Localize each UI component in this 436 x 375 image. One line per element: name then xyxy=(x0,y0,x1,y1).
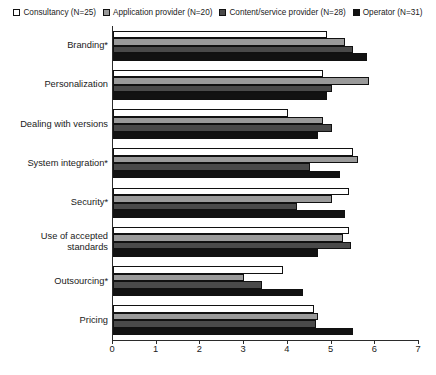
category-label: Pricing xyxy=(0,315,108,326)
x-axis-tick-label: 0 xyxy=(102,344,122,354)
bar xyxy=(113,289,303,297)
bar xyxy=(113,195,332,203)
bar xyxy=(113,46,353,54)
bar xyxy=(113,156,358,164)
legend-swatch-content-service-provider-icon xyxy=(219,9,226,16)
bar-group xyxy=(113,31,419,61)
bar-group xyxy=(113,227,419,257)
bar xyxy=(113,328,353,336)
legend-entry: Content/service provider (N=28) xyxy=(219,9,345,17)
bar xyxy=(113,92,327,100)
bar xyxy=(113,70,323,78)
x-axis-tick-label: 1 xyxy=(146,344,166,354)
legend-label: Operator (N=31) xyxy=(363,9,423,17)
bar xyxy=(113,210,345,218)
bar-group xyxy=(113,148,419,178)
bar xyxy=(113,163,310,171)
bar xyxy=(113,38,345,46)
legend-label: Application provider (N=20) xyxy=(113,9,212,17)
bar xyxy=(113,320,316,328)
legend-swatch-operator-icon xyxy=(353,9,360,16)
category-label: Use of accepted standards xyxy=(0,231,108,252)
value-axis: 01234567 xyxy=(112,340,418,360)
category-axis-labels: Branding*PersonalizationDealing with ver… xyxy=(0,26,108,340)
legend-swatch-consultancy-icon xyxy=(13,9,20,16)
x-axis-tick-label: 4 xyxy=(277,344,297,354)
bar xyxy=(113,313,318,321)
bar xyxy=(113,148,353,156)
bar xyxy=(113,249,318,257)
category-label: System integration* xyxy=(0,158,108,169)
bar xyxy=(113,109,288,117)
x-axis-tick-label: 3 xyxy=(233,344,253,354)
chart-legend: Consultancy (N=25)Application provider (… xyxy=(0,4,436,22)
bar xyxy=(113,77,369,85)
bar xyxy=(113,234,343,242)
bar xyxy=(113,171,340,179)
category-label: Outsourcing* xyxy=(0,276,108,287)
bar xyxy=(113,227,349,235)
bar xyxy=(113,124,332,132)
bar xyxy=(113,117,323,125)
bar xyxy=(113,266,283,274)
chart-area: Branding*PersonalizationDealing with ver… xyxy=(0,22,436,375)
legend-entry: Application provider (N=20) xyxy=(103,9,212,17)
bar xyxy=(113,85,332,93)
legend-label: Content/service provider (N=28) xyxy=(229,9,345,17)
bar xyxy=(113,242,351,250)
bar-group xyxy=(113,188,419,218)
bar xyxy=(113,132,318,140)
bar-group xyxy=(113,305,419,335)
bar xyxy=(113,274,244,282)
legend-label: Consultancy (N=25) xyxy=(23,9,96,17)
bar xyxy=(113,53,367,61)
bar-group xyxy=(113,109,419,139)
legend-entry: Operator (N=31) xyxy=(353,9,423,17)
bar xyxy=(113,281,262,289)
x-axis-tick-label: 5 xyxy=(321,344,341,354)
category-label: Dealing with versions xyxy=(0,119,108,130)
legend-swatch-application-provider-icon xyxy=(103,9,110,16)
plot-area xyxy=(112,26,419,341)
category-label: Security* xyxy=(0,197,108,208)
category-label: Branding* xyxy=(0,40,108,51)
legend-entry: Consultancy (N=25) xyxy=(13,9,96,17)
bar xyxy=(113,31,327,39)
x-axis-tick-label: 6 xyxy=(364,344,384,354)
category-label: Personalization xyxy=(0,79,108,90)
bar-group xyxy=(113,70,419,100)
x-axis-tick-label: 7 xyxy=(408,344,428,354)
bar xyxy=(113,188,349,196)
bar-group xyxy=(113,266,419,296)
x-axis-tick-label: 2 xyxy=(189,344,209,354)
bar xyxy=(113,305,314,313)
bar xyxy=(113,203,297,211)
